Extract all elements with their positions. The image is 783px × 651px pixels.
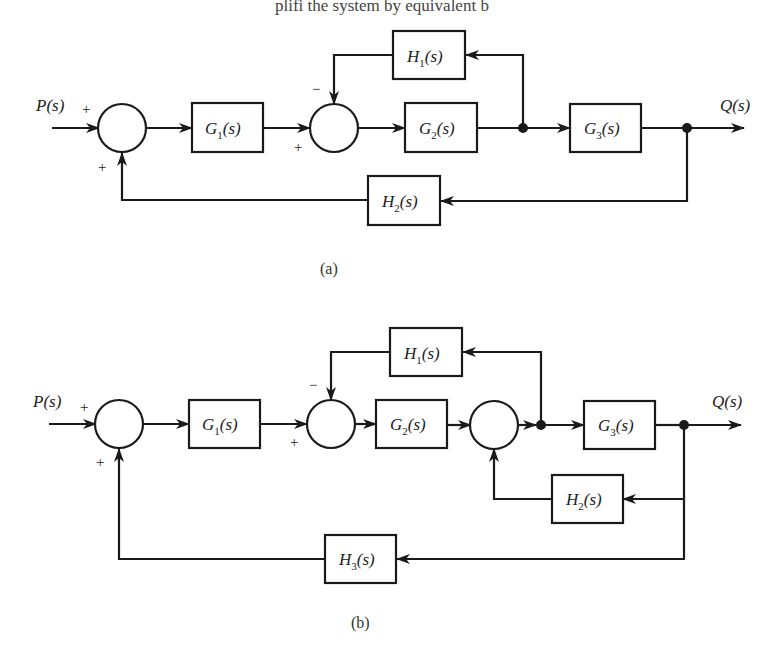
summing-junction-3 [470, 401, 518, 449]
svg-text:G3(s): G3(s) [598, 416, 634, 438]
block-h2: H2(s) [368, 176, 440, 225]
input-label: P(s) [32, 392, 62, 411]
summing-junction-1 [95, 400, 143, 448]
svg-text:G1(s): G1(s) [205, 119, 241, 141]
sum2-input-sign: + [290, 434, 298, 450]
svg-text:H3(s): H3(s) [338, 550, 375, 572]
block-h3: H3(s) [325, 535, 396, 583]
sum2-feedback-sign: − [309, 377, 317, 393]
svg-text:G2(s): G2(s) [390, 415, 426, 437]
summing-junction-2 [310, 104, 358, 152]
summing-junction-2 [307, 400, 355, 448]
header-text: plifi the system by equivalent b [275, 0, 489, 15]
output-label: Q(s) [720, 96, 751, 115]
input-label: P(s) [35, 96, 65, 115]
sum1-input-sign: + [82, 101, 90, 117]
diagram-b: P(s) + + G1(s) + − G2(s) H1(s) [32, 328, 743, 632]
block-h1: H1(s) [393, 31, 465, 79]
svg-text:G1(s): G1(s) [202, 415, 238, 437]
block-g1: G1(s) [189, 400, 260, 448]
block-h2: H2(s) [552, 475, 623, 523]
sum1-feedback-sign: + [98, 159, 106, 175]
block-g1: G1(s) [192, 103, 263, 152]
summing-junction-1 [98, 104, 146, 152]
block-g2: G2(s) [376, 400, 447, 448]
svg-text:H1(s): H1(s) [406, 47, 443, 69]
svg-text:H2(s): H2(s) [565, 490, 602, 512]
block-g3: G3(s) [570, 104, 641, 152]
block-g3: G3(s) [584, 401, 655, 449]
sum2-feedback-sign: − [312, 81, 320, 97]
svg-text:H2(s): H2(s) [381, 192, 418, 214]
caption-b: (b) [351, 614, 370, 632]
block-diagrams: plifi the system by equivalent b P(s) + … [0, 0, 783, 651]
svg-text:G2(s): G2(s) [419, 119, 455, 141]
sum1-input-sign: + [80, 399, 88, 415]
svg-text:G3(s): G3(s) [584, 119, 620, 141]
diagram-a: P(s) + + G1(s) + − G2(s) H1(s) [35, 31, 751, 278]
output-label: Q(s) [712, 392, 743, 411]
sum2-input-sign: + [294, 139, 302, 155]
caption-a: (a) [320, 260, 338, 278]
sum1-feedback-sign: + [96, 454, 104, 470]
block-h1: H1(s) [390, 328, 462, 376]
block-g2: G2(s) [405, 103, 477, 152]
svg-text:H1(s): H1(s) [403, 344, 440, 366]
